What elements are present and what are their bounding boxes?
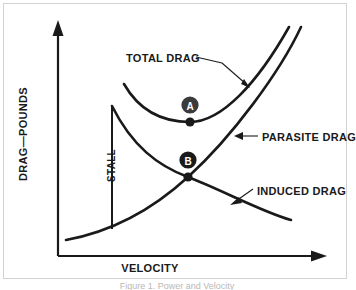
total-drag-label: TOTAL DRAG <box>126 52 200 64</box>
stall-label: STALL <box>106 143 117 189</box>
marker-a-dot <box>185 117 194 126</box>
parasite-drag-label: PARASITE DRAG <box>262 131 356 143</box>
x-axis-label: VELOCITY <box>0 262 300 274</box>
x-axis-arrowhead <box>311 251 327 262</box>
y-axis-arrowhead <box>53 20 64 36</box>
marker-b-label: B <box>184 156 191 167</box>
marker-a-label: A <box>186 101 193 112</box>
total-drag-curve <box>124 27 289 122</box>
marker-b-dot <box>183 172 192 181</box>
total-drag-leader-line-2 <box>222 63 246 84</box>
parasite-drag-leader-arrowhead <box>234 132 243 140</box>
y-axis-label: DRAG—POUNDS <box>17 64 29 204</box>
total-drag-leader-line <box>196 57 222 63</box>
figure-caption: Figure 1. Power and Velocity <box>0 281 354 290</box>
induced-drag-label: INDUCED DRAG <box>257 185 346 197</box>
